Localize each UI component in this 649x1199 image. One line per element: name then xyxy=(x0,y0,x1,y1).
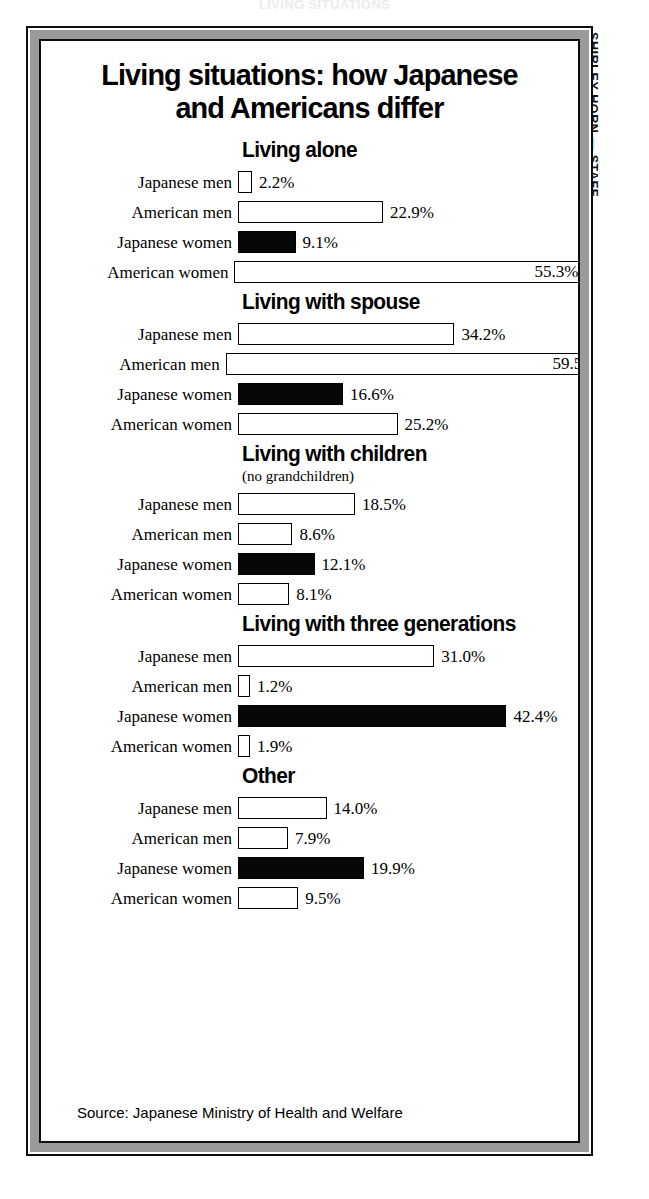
bar-zone: 25.2% xyxy=(238,413,578,435)
bar xyxy=(238,857,364,879)
bar-row-label: Japanese women xyxy=(41,233,238,252)
bar-value-label: 9.1% xyxy=(303,233,338,252)
bar xyxy=(238,171,252,193)
page-title: Living situations: how Japanese and Amer… xyxy=(69,58,550,124)
bar-zone: 8.1% xyxy=(238,583,578,605)
bar-row-label: Japanese women xyxy=(41,385,238,404)
bar-row: American women55.3% xyxy=(41,257,578,287)
bar-row: American women8.1% xyxy=(41,579,578,609)
bar-row: American women1.9% xyxy=(41,731,578,761)
chart-frame: Living situations: how Japanese and Amer… xyxy=(26,26,593,1156)
bar-row-label: Japanese women xyxy=(41,859,238,878)
bar xyxy=(238,827,288,849)
bar-value-label: 25.2% xyxy=(405,415,449,434)
bar-value-label: 14.0% xyxy=(334,799,378,818)
bar-zone: 7.9% xyxy=(238,827,578,849)
bar-zone: 12.1% xyxy=(238,553,578,575)
bar-row: Japanese women9.1% xyxy=(41,227,578,257)
bar-row-label: American men xyxy=(41,677,238,696)
source-note: Source: Japanese Ministry of Health and … xyxy=(77,1104,403,1121)
bar-zone: 9.1% xyxy=(238,231,578,253)
panel-rows: Japanese men2.2%American men22.9%Japanes… xyxy=(41,167,578,287)
bar-zone: 18.5% xyxy=(238,493,578,515)
bar-zone: 9.5% xyxy=(238,887,578,909)
bar-row: Japanese men31.0% xyxy=(41,641,578,671)
bar-value-label: 1.2% xyxy=(257,677,292,696)
bar-value-label: 59.5% xyxy=(552,354,580,373)
bar-zone: 1.9% xyxy=(238,735,578,757)
panel-subheading: (no grandchildren) xyxy=(242,468,578,485)
bar-row: Japanese men18.5% xyxy=(41,489,578,519)
panel-heading: Living alone xyxy=(242,137,561,163)
bar-value-label: 19.9% xyxy=(371,859,415,878)
bar xyxy=(238,201,383,223)
chart-panel: Living aloneJapanese men2.2%American men… xyxy=(41,137,578,287)
bar-value-label: 1.9% xyxy=(257,737,292,756)
bar xyxy=(238,323,454,345)
bar-zone: 1.2% xyxy=(238,675,578,697)
panel-rows: Japanese men31.0%American men1.2%Japanes… xyxy=(41,641,578,761)
bar-row-label: American women xyxy=(41,889,238,908)
bar-row: American men7.9% xyxy=(41,823,578,853)
bar-row: American men22.9% xyxy=(41,197,578,227)
bar-row-label: Japanese men xyxy=(41,647,238,666)
bar-zone: 31.0% xyxy=(238,645,578,667)
bar-zone: 16.6% xyxy=(238,383,578,405)
chart-panel: OtherJapanese men14.0%American men7.9%Ja… xyxy=(41,763,578,913)
bar-value-label: 34.2% xyxy=(461,325,505,344)
bar-value-label: 9.5% xyxy=(305,889,340,908)
bar xyxy=(238,583,289,605)
bar xyxy=(238,493,355,515)
bar-row: American women9.5% xyxy=(41,883,578,913)
bar-value-label: 2.2% xyxy=(259,173,294,192)
chart-title-line-2: and Americans differ xyxy=(69,91,550,124)
bar-row-label: American men xyxy=(41,355,226,374)
bar-row-label: American men xyxy=(41,203,238,222)
bar: 59.5% xyxy=(226,353,580,375)
bar-row: American men59.5% xyxy=(41,349,578,379)
panel-rows: Japanese men18.5%American men8.6%Japanes… xyxy=(41,489,578,609)
bar-value-label: 12.1% xyxy=(322,555,366,574)
bar-row: Japanese women12.1% xyxy=(41,549,578,579)
bar-row-label: American women xyxy=(41,737,238,756)
bar-row: Japanese men14.0% xyxy=(41,793,578,823)
bar-value-label: 22.9% xyxy=(390,203,434,222)
bar xyxy=(238,735,250,757)
panel-rows: Japanese men34.2%American men59.5%Japane… xyxy=(41,319,578,439)
bar-row-label: Japanese men xyxy=(41,173,238,192)
chart-panels: Living aloneJapanese men2.2%American men… xyxy=(41,137,578,913)
bar-row: American men8.6% xyxy=(41,519,578,549)
bar xyxy=(238,413,398,435)
bar-zone: 42.4% xyxy=(238,705,578,727)
bar-row-label: American women xyxy=(41,585,238,604)
bar-value-label: 31.0% xyxy=(441,647,485,666)
bar-row-label: Japanese women xyxy=(41,707,238,726)
bar-row-label: Japanese men xyxy=(41,799,238,818)
bar xyxy=(238,553,315,575)
bar-row: Japanese men34.2% xyxy=(41,319,578,349)
bar-value-label: 55.3% xyxy=(535,262,579,281)
cut-off-headline-remnant: LIVING SITUATIONS xyxy=(0,0,649,14)
bar-value-label: 7.9% xyxy=(295,829,330,848)
bar-zone: 34.2% xyxy=(238,323,578,345)
bar-value-label: 42.4% xyxy=(513,707,557,726)
bar-row-label: Japanese men xyxy=(41,495,238,514)
bar-zone: 22.9% xyxy=(238,201,578,223)
panel-heading: Living with spouse xyxy=(242,289,561,315)
bar-zone: 2.2% xyxy=(238,171,578,193)
bar-row: American men1.2% xyxy=(41,671,578,701)
bar-row-label: American men xyxy=(41,829,238,848)
bar-value-label: 16.6% xyxy=(350,385,394,404)
chart-body: Living situations: how Japanese and Amer… xyxy=(39,39,580,1143)
bar-zone: 59.5% xyxy=(226,353,578,375)
chart-panel: Living with children(no grandchildren)Ja… xyxy=(41,441,578,609)
bar xyxy=(238,383,343,405)
bar-value-label: 18.5% xyxy=(362,495,406,514)
bar-row: Japanese women19.9% xyxy=(41,853,578,883)
panel-heading: Living with children xyxy=(242,441,561,467)
bar xyxy=(238,675,250,697)
bar: 55.3% xyxy=(234,261,580,283)
bar-row-label: American men xyxy=(41,525,238,544)
panel-heading: Living with three generations xyxy=(242,611,561,637)
bar-row-label: Japanese men xyxy=(41,325,238,344)
